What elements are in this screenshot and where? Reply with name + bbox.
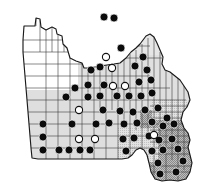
map-marker-filled bbox=[39, 146, 47, 154]
map-marker-filled bbox=[116, 107, 124, 115]
map-marker-filled bbox=[137, 92, 145, 100]
map-marker-filled bbox=[129, 108, 137, 116]
map-marker-open bbox=[102, 53, 109, 60]
map-marker-filled bbox=[65, 146, 73, 154]
map-marker-filled bbox=[174, 145, 182, 153]
map-marker-filled bbox=[100, 81, 108, 89]
map-marker-filled bbox=[130, 134, 138, 142]
map-marker-filled bbox=[168, 135, 176, 143]
map-marker-filled bbox=[86, 146, 94, 154]
map-marker-filled bbox=[92, 120, 100, 128]
map-marker-open bbox=[109, 82, 116, 89]
map-marker-filled bbox=[110, 14, 118, 22]
map-marker-open bbox=[75, 106, 82, 113]
map-marker-filled bbox=[125, 92, 133, 100]
map-marker-filled bbox=[156, 170, 164, 178]
map-marker-filled bbox=[96, 92, 104, 100]
map-marker-filled bbox=[131, 62, 139, 70]
map-marker-filled bbox=[147, 76, 155, 84]
map-marker-filled bbox=[100, 13, 108, 21]
map-marker-filled bbox=[122, 147, 130, 155]
map-marker-filled bbox=[170, 120, 178, 128]
map-marker-filled bbox=[84, 93, 92, 101]
map-marker-filled bbox=[96, 63, 104, 71]
state-shading-group bbox=[0, 0, 206, 184]
map-marker-filled bbox=[141, 106, 149, 114]
map-marker-filled bbox=[139, 53, 147, 61]
map-marker-open bbox=[150, 131, 157, 138]
map-marker-filled bbox=[143, 66, 151, 74]
map-marker-filled bbox=[99, 106, 107, 114]
map-marker-open bbox=[108, 64, 115, 71]
map-marker-filled bbox=[117, 44, 125, 52]
map-marker-filled bbox=[148, 118, 156, 126]
map-marker-open bbox=[75, 135, 82, 142]
map-marker-open bbox=[121, 82, 128, 89]
map-marker-filled bbox=[154, 159, 162, 167]
map-marker-filled bbox=[62, 93, 70, 101]
map-marker-filled bbox=[163, 114, 171, 122]
map-marker-filled bbox=[159, 146, 167, 154]
map-marker-filled bbox=[120, 120, 128, 128]
map-marker-filled bbox=[39, 120, 47, 128]
map-marker-filled bbox=[113, 92, 121, 100]
map-marker-filled bbox=[159, 122, 167, 130]
map-marker-filled bbox=[105, 119, 113, 127]
map-marker-filled bbox=[179, 157, 187, 165]
missouri-distribution-map bbox=[0, 0, 206, 184]
map-marker-filled bbox=[39, 133, 47, 141]
map-marker-filled bbox=[148, 89, 156, 97]
map-marker-filled bbox=[76, 146, 84, 154]
map-marker-filled bbox=[87, 66, 95, 74]
map-marker-filled bbox=[119, 135, 127, 143]
map-marker-filled bbox=[135, 78, 143, 86]
map-svg bbox=[0, 0, 206, 184]
map-marker-filled bbox=[172, 168, 180, 176]
map-marker-filled bbox=[154, 104, 162, 112]
map-marker-filled bbox=[133, 119, 141, 127]
map-marker-filled bbox=[148, 147, 156, 155]
map-marker-filled bbox=[71, 84, 79, 92]
map-marker-open bbox=[91, 135, 98, 142]
map-marker-filled bbox=[84, 81, 92, 89]
map-marker-filled bbox=[68, 120, 76, 128]
map-marker-filled bbox=[55, 146, 63, 154]
